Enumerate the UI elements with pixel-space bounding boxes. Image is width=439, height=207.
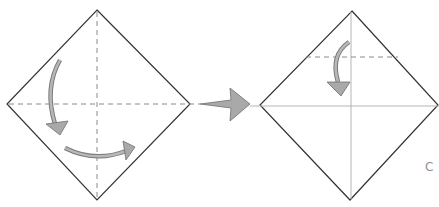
paper-diamond-step-1 bbox=[7, 10, 190, 200]
step-1 bbox=[7, 10, 200, 200]
next-step-arrow-icon bbox=[200, 88, 250, 121]
partial-step-label: C bbox=[425, 160, 433, 174]
step-2 bbox=[250, 11, 439, 200]
origami-diagram bbox=[0, 0, 439, 207]
